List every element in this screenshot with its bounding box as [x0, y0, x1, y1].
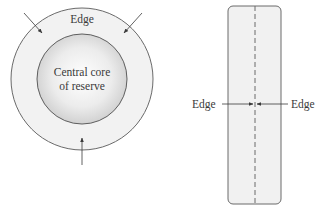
left-edge-label: Edge — [192, 98, 216, 111]
core-label-line1: Central core — [54, 66, 111, 78]
core-label-line2: of reserve — [59, 80, 105, 92]
edge-label: Edge — [70, 13, 94, 26]
central-core — [37, 34, 127, 124]
circular-reserve: Edge Central core of reserve — [11, 8, 153, 165]
elongated-reserve: Edge Edge — [192, 6, 315, 204]
right-edge-label: Edge — [291, 98, 315, 111]
diagram-canvas: Edge Central core of reserve Edge Edge — [0, 0, 316, 210]
